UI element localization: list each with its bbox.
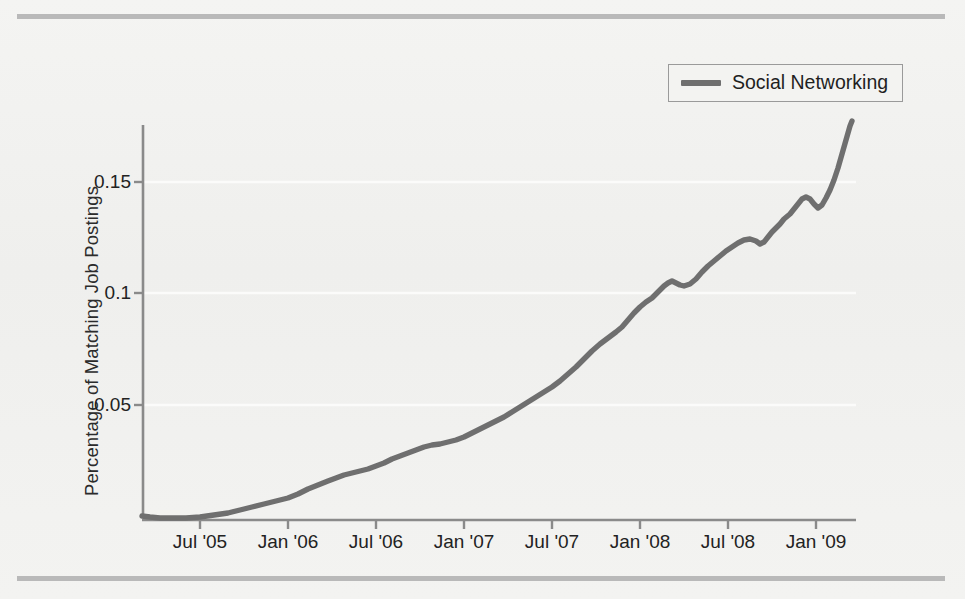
y-axis-ticks: [134, 182, 143, 405]
gridlines: [142, 182, 856, 405]
series-line-social-networking: [142, 121, 852, 518]
legend-label-social-networking: Social Networking: [732, 71, 888, 94]
x-axis-ticks: [200, 520, 816, 529]
axis-lines: [142, 125, 856, 520]
legend-line-swatch-icon: [681, 80, 721, 86]
chart-legend[interactable]: Social Networking: [668, 64, 903, 102]
line-chart-figure: Percentage of Matching Job Postings 0.15…: [0, 0, 965, 599]
